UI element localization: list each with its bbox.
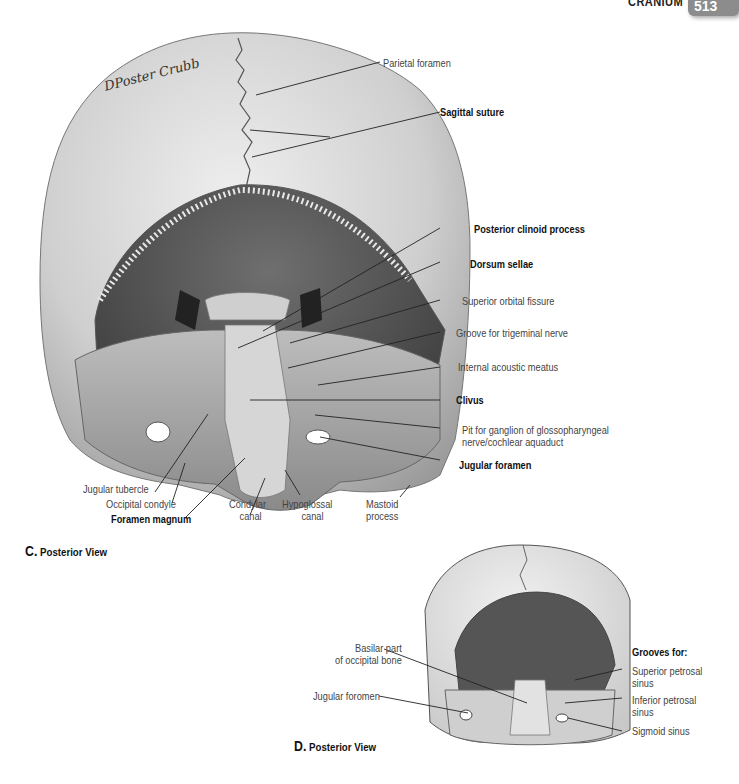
label-pit-ganglion-line2: nerve/cochlear aquaduct: [462, 436, 609, 448]
label-sigmoid-sinus: Sigmoid sinus: [632, 725, 690, 737]
label-pit-ganglion-line1: Pit for ganglion of glossopharyngeal: [462, 424, 609, 436]
label-superior-petrosal-sinus: Superior petrosal sinus: [632, 665, 702, 689]
label-superior-petrosal-line2: sinus: [632, 677, 702, 689]
label-condylar-canal-line1: Condylar: [229, 498, 266, 510]
label-superior-orbital-fissure: Superior orbital fissure: [462, 295, 554, 307]
label-basilar-part-line1: Basilar part: [335, 642, 402, 654]
label-mastoid-process-line2: process: [366, 510, 398, 522]
label-hypoglossal-canal-line1: Hypoglossal: [282, 498, 332, 510]
label-jugular-foramen-d: Jugular foromen: [313, 690, 380, 702]
label-posterior-clinoid-process: Posterior clinoid process: [474, 223, 585, 235]
label-jugular-foramen-c: Jugular foramen: [459, 459, 531, 471]
label-clivus: Clivus: [456, 394, 484, 406]
figure-d-caption-text: Posterior View: [309, 741, 376, 753]
label-condylar-canal-line2: canal: [229, 510, 266, 522]
label-inferior-petrosal-sinus: Inferior petrosal sinus: [632, 694, 696, 718]
label-inferior-petrosal-line1: Inferior petrosal: [632, 694, 696, 706]
figure-c-caption-text: Posterior View: [40, 546, 107, 558]
label-superior-petrosal-line1: Superior petrosal: [632, 665, 702, 677]
label-mastoid-process: Mastoid process: [366, 498, 398, 522]
figure-d-letter: D.: [294, 738, 306, 754]
label-condylar-canal: Condylar canal: [229, 498, 266, 522]
label-parietal-foramen: Parietal foramen: [383, 57, 451, 69]
label-hypoglossal-canal-line2: canal: [282, 510, 332, 522]
label-inferior-petrosal-line2: sinus: [632, 706, 696, 718]
label-sagittal-suture: Sagittal suture: [440, 106, 504, 118]
label-pit-ganglion: Pit for ganglion of glossopharyngeal ner…: [462, 424, 609, 448]
skull-posterior-view-c: [40, 33, 470, 510]
label-basilar-part-line2: of occipital bone: [335, 654, 402, 666]
skull-posterior-view-d: [425, 545, 630, 745]
label-foramen-magnum: Foramen magnum: [111, 513, 191, 525]
label-groove-trigeminal-nerve: Groove for trigeminal nerve: [456, 327, 568, 339]
label-grooves-for: Grooves for:: [632, 646, 687, 658]
figure-c-caption: C. Posterior View: [25, 543, 107, 559]
figure-c-letter: C.: [25, 543, 37, 559]
label-dorsum-sellae: Dorsum sellae: [470, 258, 533, 270]
label-mastoid-process-line1: Mastoid: [366, 498, 398, 510]
label-hypoglossal-canal: Hypoglossal canal: [282, 498, 332, 522]
figure-d-caption: D. Posterior View: [294, 738, 376, 754]
label-basilar-part: Basilar part of occipital bone: [335, 642, 402, 666]
label-occipital-condyle: Occipital condyle: [106, 498, 176, 510]
label-jugular-tubercle: Jugular tubercle: [83, 483, 149, 495]
label-internal-acoustic-meatus: Internal acoustic meatus: [458, 361, 558, 373]
